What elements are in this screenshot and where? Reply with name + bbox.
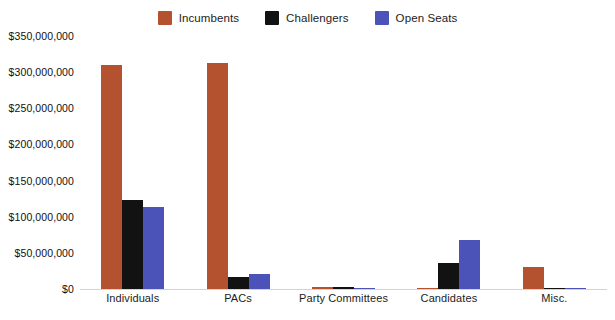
bar[interactable]	[228, 277, 249, 289]
x-axis-tick-label: Individuals	[80, 292, 185, 304]
bar[interactable]	[249, 274, 270, 289]
y-axis-tick-label: $350,000,000	[9, 30, 74, 42]
bar[interactable]	[122, 200, 143, 289]
x-axis-tick-label: Candidates	[396, 292, 501, 304]
bar[interactable]	[143, 207, 164, 289]
plot-area-wrapper: $0$50,000,000$100,000,000$150,000,000$20…	[0, 36, 615, 320]
bar[interactable]	[354, 288, 375, 290]
y-axis-tick-label: $100,000,000	[9, 211, 74, 223]
plot-area	[80, 36, 607, 290]
square-swatch-icon	[375, 11, 389, 25]
bar[interactable]	[207, 63, 228, 289]
bar-group	[396, 36, 501, 289]
legend-label: Challengers	[286, 12, 348, 24]
bar[interactable]	[333, 287, 354, 289]
legend-item-open-seats[interactable]: Open Seats	[375, 11, 458, 25]
bar-group	[291, 36, 396, 289]
y-axis-tick-label: $250,000,000	[9, 102, 74, 114]
square-swatch-icon	[265, 11, 279, 25]
bar-chart: Incumbents Challengers Open Seats $0$50,…	[0, 0, 615, 320]
x-axis: IndividualsPACsParty CommitteesCandidate…	[80, 292, 607, 304]
bar-group	[185, 36, 290, 289]
bar[interactable]	[544, 288, 565, 290]
legend-item-incumbents[interactable]: Incumbents	[158, 11, 239, 25]
bar-group	[80, 36, 185, 289]
bar-groups	[80, 36, 607, 289]
x-axis-tick-label: Party Committees	[291, 292, 396, 304]
y-axis-tick-label: $0	[62, 283, 74, 295]
bar[interactable]	[438, 263, 459, 289]
bar[interactable]	[312, 287, 333, 289]
y-axis-tick-label: $50,000,000	[15, 247, 75, 259]
legend-item-challengers[interactable]: Challengers	[265, 11, 348, 25]
legend-label: Open Seats	[396, 12, 458, 24]
legend-label: Incumbents	[179, 12, 239, 24]
bar-group	[502, 36, 607, 289]
bar[interactable]	[523, 267, 544, 289]
bar[interactable]	[417, 288, 438, 290]
y-axis-tick-label: $150,000,000	[9, 175, 74, 187]
bar[interactable]	[565, 288, 586, 290]
bar[interactable]	[459, 240, 480, 289]
y-axis-tick-label: $300,000,000	[9, 66, 74, 78]
y-axis-tick-label: $200,000,000	[9, 138, 74, 150]
x-axis-tick-label: PACs	[185, 292, 290, 304]
bar[interactable]	[101, 65, 122, 289]
x-axis-tick-label: Misc.	[502, 292, 607, 304]
chart-legend: Incumbents Challengers Open Seats	[0, 8, 615, 28]
y-axis: $0$50,000,000$100,000,000$150,000,000$20…	[0, 36, 80, 296]
square-swatch-icon	[158, 11, 172, 25]
